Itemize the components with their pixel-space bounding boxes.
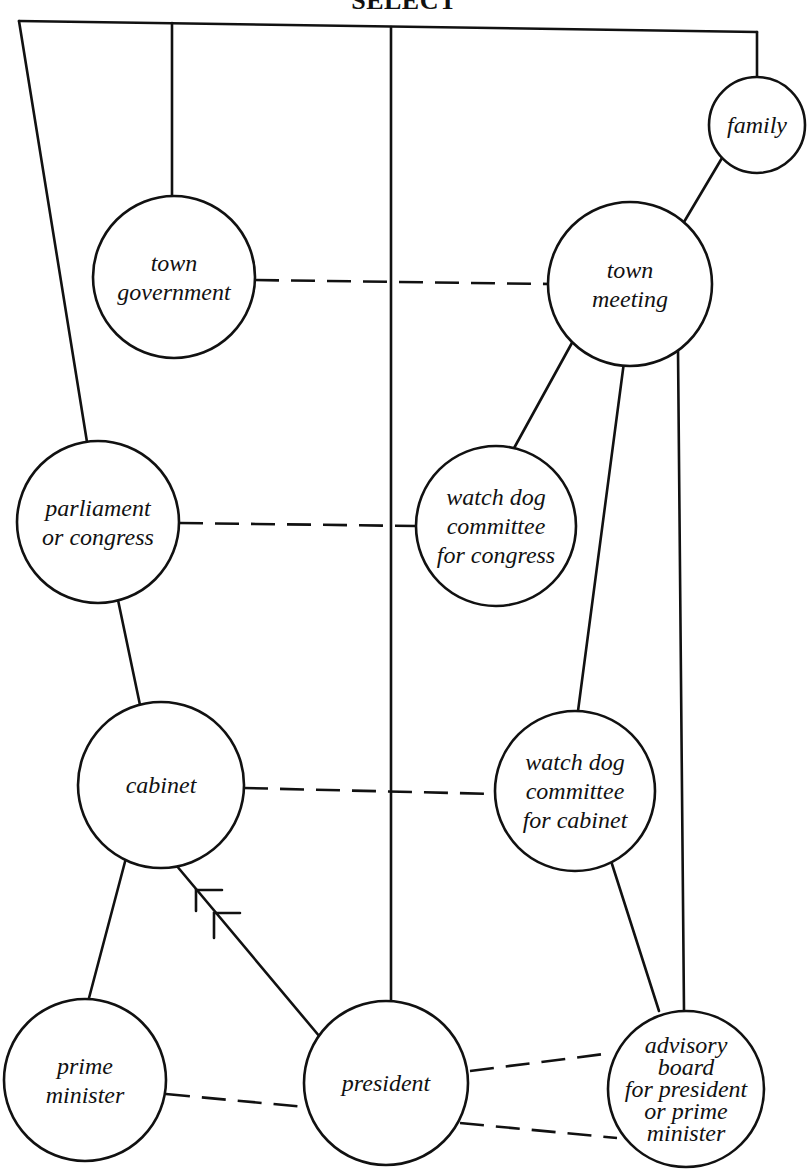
- node-label: watch dog: [525, 749, 624, 775]
- node-label: town: [607, 257, 654, 283]
- node-label: family: [727, 112, 787, 138]
- president-to-advisory-board-lower: [460, 1123, 617, 1138]
- node-label: for cabinet: [523, 807, 629, 833]
- node-label: committee: [526, 778, 625, 804]
- prime-minister-to-president: [166, 1094, 305, 1107]
- president-to-advisory-board-upper: [470, 1053, 612, 1071]
- node-president: president: [304, 1001, 468, 1165]
- node-label: president: [340, 1070, 432, 1096]
- node-label: for congress: [437, 542, 555, 568]
- node-parliament: parliamentor congress: [17, 441, 179, 603]
- parliament-to-cabinet: [118, 600, 140, 705]
- town-meeting-to-watchdog-cabinet: [578, 362, 624, 711]
- node-label: cabinet: [126, 772, 198, 798]
- node-label: parliament: [43, 495, 152, 521]
- town-meeting-to-watchdog-congress: [513, 341, 573, 450]
- node-label: watch dog: [446, 484, 545, 510]
- town-meeting-to-advisory-board: [678, 349, 684, 1011]
- family-to-town-meeting: [684, 158, 722, 222]
- node-circle: [548, 202, 712, 366]
- node-label: or congress: [42, 524, 154, 550]
- node-town-government: towngovernment: [93, 196, 255, 358]
- node-watchdog-congress: watch dogcommitteefor congress: [416, 446, 576, 606]
- node-circle: [93, 196, 255, 358]
- node-label: meeting: [592, 286, 668, 312]
- governance-diagram: familytowngovernmenttownmeetingparliamen…: [0, 0, 808, 1170]
- node-circle: [4, 999, 166, 1161]
- node-label: minister: [46, 1082, 125, 1108]
- node-label: town: [151, 250, 198, 276]
- watchdog-cabinet-to-advisory-board: [612, 864, 659, 1011]
- node-label: committee: [447, 513, 546, 539]
- cabinet-to-prime-minister: [89, 858, 126, 998]
- node-town-meeting: townmeeting: [548, 202, 712, 366]
- cabinet-to-watchdog-cabinet: [244, 788, 495, 794]
- node-circle: [17, 441, 179, 603]
- top-bus: [19, 21, 757, 32]
- node-advisory-board: advisoryboardfor presidentor primeminist…: [608, 1011, 764, 1167]
- parliament-to-watchdog-congress: [179, 523, 416, 526]
- node-family: family: [709, 77, 805, 173]
- node-label: prime: [55, 1053, 113, 1079]
- node-label: minister: [647, 1120, 726, 1146]
- node-prime-minister: primeminister: [4, 999, 166, 1161]
- node-label: government: [117, 279, 232, 305]
- node-watchdog-cabinet: watch dogcommitteefor cabinet: [495, 711, 655, 871]
- town-government-to-town-meeting: [255, 280, 549, 284]
- bus-to-parliament: [19, 21, 87, 442]
- node-cabinet: cabinet: [78, 702, 244, 868]
